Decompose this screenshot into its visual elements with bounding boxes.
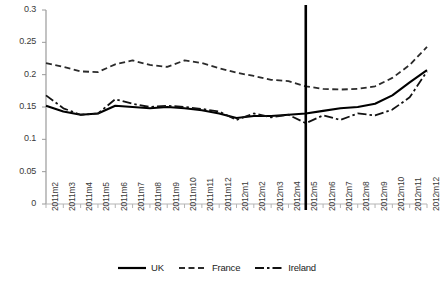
y-axis-tick-label: 0.2: [6, 69, 36, 79]
chart-legend: UKFranceIreland: [0, 262, 433, 273]
x-axis-tick-label: 2011m5: [101, 182, 111, 211]
x-axis-tick-label: 2012m6: [327, 181, 337, 211]
y-axis-tick-label: 0: [6, 198, 36, 208]
x-axis-tick-label: 2011m12: [223, 178, 233, 211]
legend-label: UK: [151, 262, 164, 273]
x-axis-tick-label: 2012m1: [240, 181, 250, 211]
legend-label: Ireland: [288, 262, 316, 273]
y-axis-tick-label: 0.25: [6, 36, 36, 46]
legend-item[interactable]: UK: [117, 262, 164, 273]
x-axis-tick-label: 2012m8: [361, 181, 371, 211]
x-axis-tick-label: 2011m3: [67, 182, 77, 211]
legend-swatch-icon: [178, 263, 208, 273]
x-axis-tick-label: 2012m4: [292, 181, 302, 211]
y-axis-tick-label: 0.1: [6, 133, 36, 143]
x-axis-tick-label: 2011m11: [205, 178, 215, 211]
x-axis-tick-label: 2012m11: [413, 178, 423, 211]
legend-swatch-icon: [254, 263, 284, 273]
x-axis-tick-label: 2012m9: [379, 181, 389, 211]
axis-group: [42, 10, 427, 208]
x-axis-tick-label: 2011m8: [153, 182, 163, 211]
x-axis-tick-label: 2011m6: [119, 182, 129, 211]
x-axis-tick-label: 2012m5: [309, 181, 319, 211]
legend-label: France: [212, 262, 240, 273]
y-axis-tick-label: 0.3: [6, 4, 36, 14]
x-axis-tick-label: 2011m4: [84, 182, 94, 211]
x-axis-tick-label: 2012m7: [344, 181, 354, 211]
x-axis-tick-label: 2011m10: [188, 178, 198, 211]
x-axis-tick-label: 2011m9: [171, 182, 181, 211]
series-line-france: [46, 47, 427, 90]
x-axis-tick-label: 2012m10: [396, 177, 406, 211]
series-line-ireland: [46, 71, 427, 123]
x-axis-tick-label: 2011m7: [136, 182, 146, 211]
legend-item[interactable]: France: [178, 262, 240, 273]
series-line-uk: [46, 70, 427, 118]
legend-item[interactable]: Ireland: [254, 262, 316, 273]
x-axis-tick-label: 2011m2: [50, 182, 60, 211]
y-axis-tick-label: 0.05: [6, 166, 36, 176]
x-axis-tick-label: 2012m3: [275, 181, 285, 211]
x-axis-tick-label: 2012m12: [431, 177, 441, 211]
series-group: [46, 47, 427, 123]
y-axis-tick-label: 0.15: [6, 101, 36, 111]
legend-swatch-icon: [117, 263, 147, 273]
x-axis-tick-label: 2012m2: [257, 181, 267, 211]
